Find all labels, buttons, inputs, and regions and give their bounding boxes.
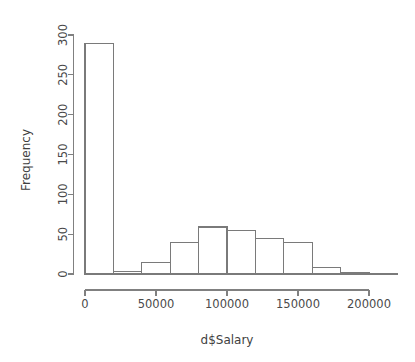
histogram-bar xyxy=(369,273,397,274)
y-axis-tick-label: 0 xyxy=(56,270,70,277)
x-axis-title: d$Salary xyxy=(201,333,254,347)
plot-canvas: 050100150200250300 050000100000150000200… xyxy=(0,0,415,362)
x-axis-tick-label: 0 xyxy=(81,297,88,311)
x-axis-tick-label: 50000 xyxy=(138,297,175,311)
histogram-bar xyxy=(255,239,283,274)
y-axis-tick-label: 300 xyxy=(56,24,70,46)
y-axis-tick-label: 200 xyxy=(56,104,70,126)
histogram-bar xyxy=(170,242,198,274)
y-axis-tick-label: 50 xyxy=(56,227,70,242)
y-axis-title: Frequency xyxy=(19,129,33,191)
histogram-plot: 050100150200250300 050000100000150000200… xyxy=(0,0,415,362)
histogram-bars xyxy=(85,44,397,274)
y-axis-tick-label: 150 xyxy=(56,144,70,166)
x-axis: 050000100000150000200000 xyxy=(81,290,391,311)
y-axis-tick-label: 100 xyxy=(56,183,70,205)
x-axis-tick-label: 200000 xyxy=(347,297,391,311)
x-axis-tick-label: 100000 xyxy=(205,297,249,311)
x-axis-tick-label: 150000 xyxy=(276,297,320,311)
y-axis: 050100150200250300 xyxy=(56,24,74,278)
histogram-bar xyxy=(85,44,113,274)
y-axis-tick-label: 250 xyxy=(56,64,70,86)
histogram-bar xyxy=(284,242,312,274)
histogram-bar xyxy=(312,268,340,274)
histogram-bar xyxy=(199,227,227,274)
histogram-bar xyxy=(227,230,255,274)
histogram-bar xyxy=(142,262,170,274)
histogram-bar xyxy=(113,272,141,274)
histogram-bar xyxy=(341,272,369,274)
